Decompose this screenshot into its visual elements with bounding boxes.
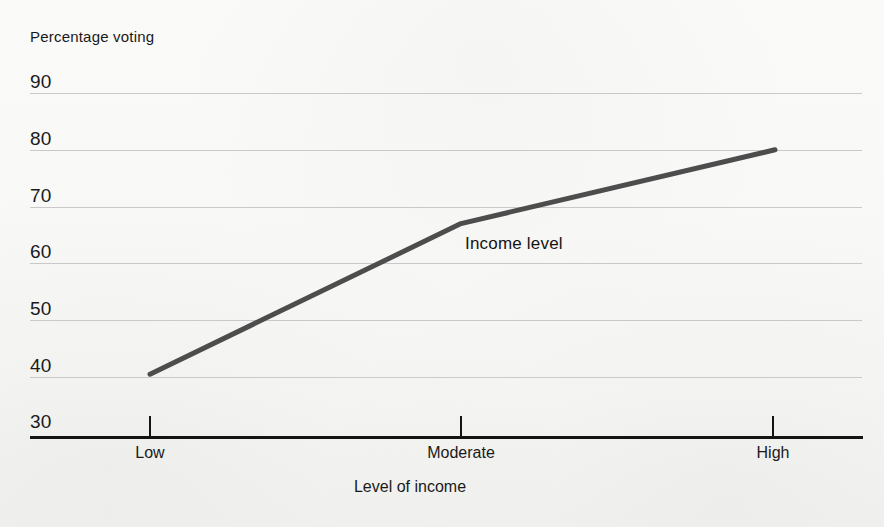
- gridline-70: [30, 207, 862, 208]
- x-tick-label-moderate: Moderate: [427, 444, 495, 462]
- x-tick-mark-high: [772, 416, 774, 436]
- series-annotation-income-level: Income level: [465, 234, 563, 254]
- gridline-80: [30, 150, 862, 151]
- gridline-50: [30, 320, 862, 321]
- x-tick-mark-moderate: [460, 416, 462, 436]
- chart-figure: Percentage voting 90 80 70 60 50 40 30 I…: [0, 0, 884, 527]
- x-tick-label-low: Low: [135, 444, 164, 462]
- y-tick-label-30: 30: [30, 412, 52, 431]
- gridline-60: [30, 263, 862, 264]
- x-axis-line: [30, 436, 863, 439]
- x-axis-title-text: Level of income: [354, 478, 466, 496]
- gridline-90: [30, 93, 862, 94]
- y-tick-label-70: 70: [30, 186, 52, 205]
- income-level-polyline: [150, 150, 775, 374]
- y-tick-label-90: 90: [30, 72, 52, 91]
- y-tick-label-60: 60: [30, 242, 52, 261]
- x-tick-mark-low: [149, 416, 151, 436]
- x-axis-title: Level of income: [0, 478, 884, 496]
- y-axis-title: Percentage voting: [30, 28, 154, 45]
- y-tick-label-80: 80: [30, 129, 52, 148]
- y-tick-label-50: 50: [30, 299, 52, 318]
- x-tick-label-high: High: [757, 444, 790, 462]
- y-tick-label-40: 40: [30, 356, 52, 375]
- gridline-40: [30, 377, 862, 378]
